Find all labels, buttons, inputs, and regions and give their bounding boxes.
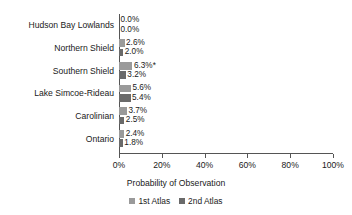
bar-group: 0.0% <box>119 26 139 34</box>
category-rows: Hudson Bay Lowlands0.0%0.0%Northern Shie… <box>0 14 352 150</box>
bar-group: 6.3%* <box>119 62 156 70</box>
bar-group: 5.4% <box>119 94 151 102</box>
chart-category-row: Southern Shield6.3%*3.2% <box>0 59 352 82</box>
category-bars: 6.3%*3.2% <box>117 59 350 82</box>
x-axis-tick-label: 80% <box>282 160 299 170</box>
bar-second-atlas <box>119 139 123 147</box>
bar-value-label: 3.2% <box>127 71 146 79</box>
bar-value-label: 5.4% <box>132 94 151 102</box>
bar-group: 2.0% <box>119 49 143 57</box>
bar-value-label: 2.6% <box>126 39 145 47</box>
bar-group: 3.2% <box>119 71 146 79</box>
x-axis-tick-label: 60% <box>239 160 256 170</box>
chart-category-row: Northern Shield2.6%2.0% <box>0 37 352 60</box>
x-axis-tick-label: 100% <box>322 160 344 170</box>
category-label: Northern Shield <box>0 43 117 53</box>
category-label: Carolinian <box>0 111 117 121</box>
x-axis-label: Probability of Observation <box>0 178 352 189</box>
bar-group: 0.0% <box>119 17 139 25</box>
plot-area: Hudson Bay Lowlands0.0%0.0%Northern Shie… <box>0 10 352 155</box>
bar-value-label: 5.6% <box>132 84 151 92</box>
category-bars: 0.0%0.0% <box>117 14 350 37</box>
bar-second-atlas <box>119 117 124 125</box>
bar-second-atlas <box>119 71 126 79</box>
bar-value-label: 2.5% <box>126 116 145 124</box>
x-axis-tick-label: 40% <box>196 160 213 170</box>
legend-label: 2nd Atlas <box>188 196 222 206</box>
chart-category-row: Carolinian3.7%2.5% <box>0 105 352 128</box>
category-bars: 2.4%1.8% <box>117 127 350 150</box>
bar-group: 2.6% <box>119 39 145 47</box>
chart-category-row: Ontario2.4%1.8% <box>0 127 352 150</box>
bar-group: 1.8% <box>119 139 143 147</box>
horizontal-bar-chart: Hudson Bay Lowlands0.0%0.0%Northern Shie… <box>0 0 352 215</box>
category-label: Hudson Bay Lowlands <box>0 20 117 30</box>
legend-swatch-icon <box>129 198 135 204</box>
chart-category-row: Hudson Bay Lowlands0.0%0.0% <box>0 14 352 37</box>
bar-value-label: 2.4% <box>126 130 145 138</box>
bar-second-atlas <box>119 94 131 102</box>
category-label: Lake Simcoe-Rideau <box>0 88 117 98</box>
legend-label: 1st Atlas <box>138 196 170 206</box>
category-bars: 2.6%2.0% <box>117 37 350 60</box>
category-label: Southern Shield <box>0 66 117 76</box>
x-axis-line <box>119 153 333 154</box>
bar-group: 2.4% <box>119 130 144 138</box>
chart-category-row: Lake Simcoe-Rideau5.6%5.4% <box>0 82 352 105</box>
chart-legend: 1st Atlas2nd Atlas <box>0 196 352 206</box>
x-axis-tick-label: 20% <box>153 160 170 170</box>
bar-value-label: 0.0% <box>121 26 140 34</box>
bar-first-atlas <box>119 62 132 70</box>
bar-first-atlas <box>119 130 124 138</box>
bar-first-atlas <box>119 107 127 115</box>
x-axis-tick-label: 0% <box>113 160 125 170</box>
bar-value-label: 1.8% <box>124 139 143 147</box>
x-axis-tick <box>205 154 206 158</box>
legend-item: 1st Atlas <box>129 196 170 206</box>
x-axis-tick <box>333 154 334 158</box>
bar-group: 3.7% <box>119 107 147 115</box>
category-bars: 3.7%2.5% <box>117 105 350 128</box>
legend-swatch-icon <box>179 198 185 204</box>
bar-group: 5.6% <box>119 85 151 93</box>
bar-value-label: 3.7% <box>128 107 147 115</box>
legend-item: 2nd Atlas <box>179 196 222 206</box>
category-label: Ontario <box>0 134 117 144</box>
category-bars: 5.6%5.4% <box>117 82 350 105</box>
x-axis-tick <box>162 154 163 158</box>
bar-value-label: 0.0% <box>121 16 140 24</box>
bar-first-atlas <box>119 39 125 47</box>
bar-value-label: 6.3%* <box>134 62 156 70</box>
x-axis-tick <box>119 154 120 158</box>
x-axis-tick <box>290 154 291 158</box>
bar-value-label: 2.0% <box>125 48 144 56</box>
bar-first-atlas <box>119 85 131 93</box>
x-axis-tick <box>247 154 248 158</box>
bar-group: 2.5% <box>119 117 145 125</box>
bar-second-atlas <box>119 49 123 57</box>
